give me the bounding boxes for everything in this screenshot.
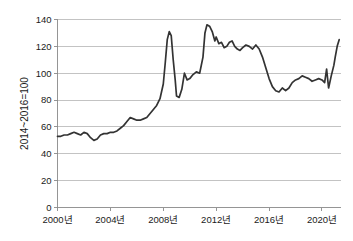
x-tick-label-2016: 2016년 — [254, 214, 284, 225]
y-tick-label-60: 60 — [41, 121, 52, 132]
y-tick-label-0: 0 — [46, 202, 51, 213]
x-tick-label-2012: 2012년 — [201, 214, 231, 225]
x-tick-label-2000: 2000년 — [42, 214, 72, 225]
y-axis-title-group: 2014~2016=100 — [19, 77, 30, 150]
chart-background — [0, 0, 353, 241]
y-axis-title: 2014~2016=100 — [19, 77, 30, 150]
y-tick-label-140: 140 — [36, 14, 52, 25]
y-tick-label-40: 40 — [41, 148, 52, 159]
chart-container: 020406080100120140 2000년2004년2008년2012년2… — [0, 0, 353, 241]
y-tick-label-20: 20 — [41, 175, 52, 186]
x-tick-label-2020: 2020년 — [307, 214, 337, 225]
y-tick-label-80: 80 — [41, 94, 52, 105]
x-tick-label-2004: 2004년 — [95, 214, 125, 225]
x-tick-label-2008: 2008년 — [148, 214, 178, 225]
line-chart: 020406080100120140 2000년2004년2008년2012년2… — [0, 0, 353, 241]
y-tick-label-120: 120 — [36, 41, 52, 52]
y-tick-label-100: 100 — [36, 68, 52, 79]
